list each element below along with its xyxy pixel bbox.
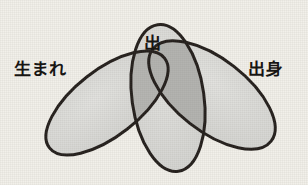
set-label-shutsu: 出 — [144, 36, 162, 53]
set-label-shusshin: 出身 — [248, 62, 283, 79]
set-label-umare: 生まれ — [14, 62, 67, 79]
venn-diagram-canvas — [0, 0, 308, 185]
venn-diagram-figure: 生まれ 出 出身 — [0, 0, 308, 185]
